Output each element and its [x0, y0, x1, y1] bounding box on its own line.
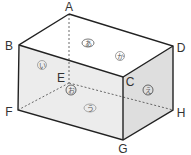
vertex-label-h: H: [177, 106, 186, 120]
vertex-label-b: B: [5, 39, 13, 53]
vertex-label-d: D: [177, 41, 186, 55]
svg-text:う: う: [87, 105, 94, 113]
svg-text:あ: あ: [85, 40, 92, 48]
face-label-top-back: か: [116, 52, 125, 61]
svg-text:え: え: [145, 87, 152, 95]
rectangular-prism-diagram: A B C D E F G H あ か い お え う: [0, 0, 191, 155]
svg-text:お: お: [68, 87, 75, 95]
vertex-label-a: A: [65, 0, 73, 14]
svg-text:か: か: [117, 53, 124, 61]
svg-text:い: い: [39, 62, 46, 70]
face-label-front: い: [38, 61, 47, 70]
vertex-label-c: C: [126, 75, 135, 89]
vertex-label-e: E: [57, 71, 65, 85]
vertex-label-g: G: [118, 142, 127, 155]
vertex-label-f: F: [5, 105, 12, 119]
